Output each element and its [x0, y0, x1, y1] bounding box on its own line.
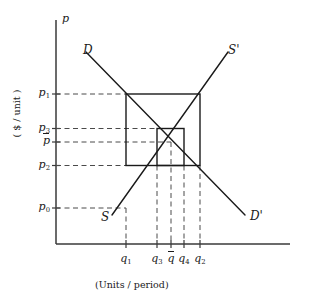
- tick-symbol: p: [39, 200, 46, 213]
- tick-symbol: p: [39, 86, 46, 99]
- tick-subscript: 1: [46, 92, 50, 100]
- tick-subscript: 2: [46, 163, 50, 171]
- demand-curve-line: [86, 52, 245, 215]
- quantity-tick-label-q1: q1: [118, 253, 134, 266]
- y-axis-symbol: p: [62, 13, 69, 24]
- tick-symbol: p: [39, 121, 46, 134]
- demand-curve-start-label: D: [83, 44, 93, 56]
- y-axis-caption: ( $ / unit ): [11, 84, 22, 144]
- supply-curve-end-label: S': [228, 44, 240, 56]
- tick-subscript: 1: [127, 258, 131, 266]
- supply-curve-line: [112, 52, 228, 215]
- tick-symbol: p: [43, 134, 50, 147]
- tick-symbol: q: [167, 252, 174, 265]
- tick-subscript: 0: [46, 206, 50, 214]
- quantity-tick-label-q4: q4: [176, 253, 192, 266]
- price-guide-dashed-lines: [56, 94, 171, 208]
- market-curves: [86, 52, 245, 215]
- supply-curve-start-label: S: [101, 211, 109, 223]
- tick-subscript: 4: [185, 258, 189, 266]
- tick-subscript: 2: [201, 258, 205, 266]
- tick-symbol: p: [39, 158, 46, 171]
- quantity-tick-label-q2: q2: [192, 253, 208, 266]
- x-axis-caption: (Units / period): [95, 279, 169, 290]
- demand-curve-end-label: D': [250, 210, 263, 222]
- price-tick-label-p0: p0: [34, 201, 50, 214]
- price-tick-label-p1: p1: [34, 87, 50, 100]
- price-tick-label-pbar: p: [34, 135, 50, 146]
- price-tick-label-p2: p2: [34, 159, 50, 172]
